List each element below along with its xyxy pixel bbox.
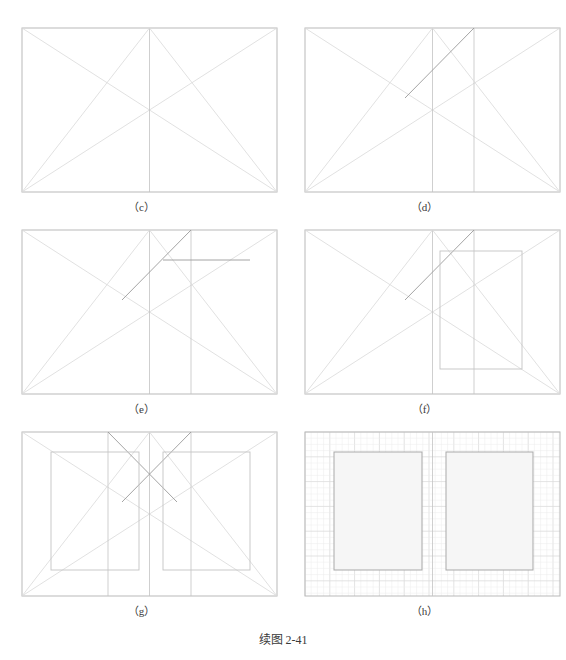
topcentre-to-bottomright xyxy=(433,28,561,192)
construction-ray-dark-right xyxy=(122,432,191,502)
derived-rectangle-right xyxy=(440,251,522,369)
panel-label-h: （h） xyxy=(283,602,566,618)
construction-ray-dark xyxy=(122,230,191,300)
panel-canvas-h xyxy=(283,420,566,620)
topcentre-to-bottomright xyxy=(150,230,278,394)
panel-canvas-c xyxy=(0,0,283,200)
diagram-panel-g: （g） xyxy=(0,420,283,620)
figure-page: （c）（d）（e）（f）（g）（h）续图 2-41 xyxy=(0,0,566,660)
topcentre-to-bottomleft xyxy=(305,28,433,192)
topcentre-to-bottomleft xyxy=(22,432,150,596)
derived-rectangle-right xyxy=(163,452,250,570)
panel-label-d: （d） xyxy=(283,198,566,214)
topcentre-to-bottomleft xyxy=(22,230,150,394)
panel-canvas-g xyxy=(0,420,283,620)
panel-label-f: （f） xyxy=(283,400,566,416)
shaded-rectangle-left xyxy=(334,452,422,570)
diagram-panel-f: （f） xyxy=(283,220,566,420)
topcentre-to-bottomleft xyxy=(22,28,150,192)
diagram-panel-d: （d） xyxy=(283,0,566,200)
panel-label-e: （e） xyxy=(0,400,283,416)
diagram-panel-c: （c） xyxy=(0,0,283,200)
construction-ray-dark xyxy=(405,230,474,300)
diagram-panel-h: （h） xyxy=(283,420,566,620)
panel-canvas-d xyxy=(283,0,566,200)
construction-ray-dark xyxy=(405,28,474,98)
diagram-panel-e: （e） xyxy=(0,220,283,420)
derived-rectangle-left xyxy=(51,452,139,570)
construction-ray-dark-left xyxy=(108,432,177,502)
panel-canvas-f xyxy=(283,220,566,420)
topcentre-to-bottomleft xyxy=(305,230,433,394)
panel-label-c: （c） xyxy=(0,198,283,214)
figure-caption: 续图 2-41 xyxy=(0,630,566,648)
panel-label-g: （g） xyxy=(0,602,283,618)
panel-canvas-e xyxy=(0,220,283,420)
shaded-rectangle-right xyxy=(446,452,533,570)
topcentre-to-bottomright xyxy=(150,28,278,192)
topcentre-to-bottomright xyxy=(150,432,278,596)
